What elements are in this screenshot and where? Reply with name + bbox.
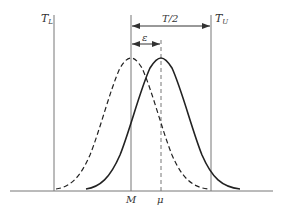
offset-label: ε: [142, 32, 147, 43]
half-tolerance-label: T/2: [162, 13, 178, 24]
shifted-distribution-curve: [86, 58, 240, 189]
nominal-distribution-curve: [56, 58, 208, 189]
mean-label: μ: [157, 194, 164, 205]
upper-limit-label: TU: [215, 12, 229, 26]
lower-limit-label: TL: [41, 12, 53, 26]
tolerance-shift-diagram: TL TU T/2 ε M μ: [0, 0, 285, 209]
center-label: M: [125, 194, 137, 205]
